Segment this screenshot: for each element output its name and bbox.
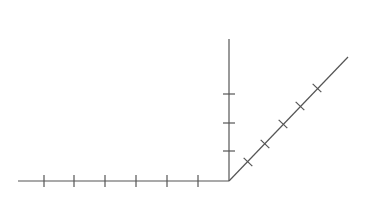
z-axis-tick [313,84,322,92]
z-axis-line [229,57,348,181]
axes-group [18,39,348,187]
axes-diagram [0,0,365,208]
